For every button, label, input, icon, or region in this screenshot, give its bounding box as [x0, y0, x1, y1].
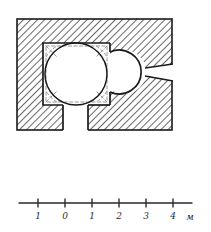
scale-bar: 1 0 1 2 3 4 м: [19, 199, 194, 222]
scale-tick-label-4: 4: [169, 211, 176, 221]
scale-tick-label-3: 3: [143, 211, 149, 221]
scale-tick-label-2: 2: [115, 211, 122, 221]
scale-tick-label-minus1: 1: [35, 211, 41, 221]
scale-unit-label: м: [186, 212, 193, 222]
scale-tick-label-1: 1: [89, 211, 95, 221]
scale-tick-label-0: 0: [62, 211, 68, 221]
floor-plan-figure: 1 0 1 2 3 4 м: [0, 0, 211, 232]
